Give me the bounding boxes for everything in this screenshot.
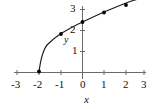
data-point [37,70,41,74]
x-tick-label-1: 1 [101,79,107,90]
x-tick-label-0: 0 [80,79,86,90]
data-point [81,20,85,24]
data-curve [39,0,140,72]
x-tick-label-neg3: -3 [11,79,20,90]
x-tick-label-neg1: -1 [55,79,64,90]
plot-canvas [0,0,159,109]
x-tick-label-2: 2 [123,79,129,90]
data-point [59,32,63,36]
y-tick-label-1: 1 [72,45,78,56]
curve-label-y: y [64,34,68,45]
x-axis-title: x [84,93,89,105]
x-tick-label-3: 3 [141,79,147,90]
y-tick-label-3: 3 [70,3,76,14]
y-tick-label-2: 2 [70,24,76,35]
x-tick-label-neg2: -2 [33,79,42,90]
graph-figure: 3 2 1 -3 -2 -1 0 1 2 3 y x [0,0,159,109]
data-point [102,11,106,15]
data-point [124,3,128,7]
